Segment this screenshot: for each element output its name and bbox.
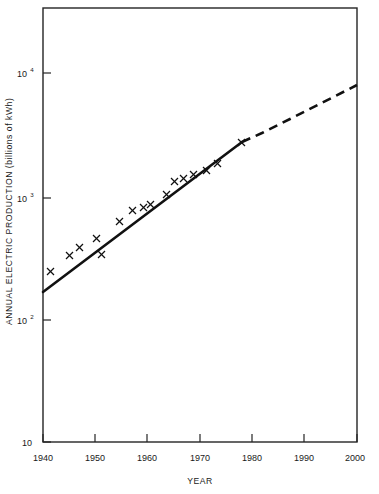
y-tick-label-100-exponent: 2 xyxy=(30,313,34,320)
plot-frame xyxy=(43,8,357,442)
x-tick-label-1960: 1960 xyxy=(137,453,157,463)
x-tick-label-1990: 1990 xyxy=(294,453,314,463)
x-tick-label-1950: 1950 xyxy=(85,453,105,463)
x-tick-label-2000: 2000 xyxy=(345,453,365,463)
plot-area-border xyxy=(43,8,357,442)
y-tick-label-10000-exponent: 4 xyxy=(30,66,34,73)
chart-figure: 10 4 10 3 10 2 10 1940 1950 1960 1970 19… xyxy=(0,0,379,494)
y-axis-tick-labels: 10 4 10 3 10 2 10 xyxy=(17,66,34,448)
y-tick-label-1000-exponent: 3 xyxy=(30,191,34,198)
y-axis-title: ANNUAL ELECTRIC PRODUCTION (billions of … xyxy=(4,98,14,325)
x-tick-label-1970: 1970 xyxy=(190,453,210,463)
y-tick-label-100-base: 10 xyxy=(17,316,27,326)
x-axis-title: YEAR xyxy=(187,476,213,486)
x-axis-tick-labels: 1940 1950 1960 1970 1980 1990 2000 xyxy=(33,453,365,463)
y-tick-label-10: 10 xyxy=(22,438,32,448)
semilog-line-chart: 10 4 10 3 10 2 10 1940 1950 1960 1970 19… xyxy=(0,0,379,494)
x-tick-label-1980: 1980 xyxy=(242,453,262,463)
x-tick-label-1940: 1940 xyxy=(33,453,53,463)
y-tick-label-10000-base: 10 xyxy=(17,69,27,79)
y-tick-label-1000-base: 10 xyxy=(17,194,27,204)
